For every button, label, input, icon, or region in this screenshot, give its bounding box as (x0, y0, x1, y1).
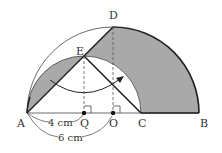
geometry-diagram: A Q O C B D E 4 cm 6 cm (0, 0, 222, 153)
label-6cm: 6 cm (58, 132, 83, 143)
label-d: D (109, 9, 118, 22)
label-b: B (200, 117, 208, 130)
label-4cm: 4 cm (48, 117, 73, 128)
shaded-region-right (84, 27, 199, 113)
label-q: Q (80, 117, 89, 130)
label-c: C (138, 117, 146, 130)
label-o: O (109, 117, 118, 130)
arrowhead-icon (116, 76, 124, 83)
label-a: A (16, 117, 26, 130)
point-q (82, 111, 86, 115)
label-e: E (76, 45, 84, 58)
point-o (111, 111, 115, 115)
measure-arc-4cm (27, 113, 50, 122)
